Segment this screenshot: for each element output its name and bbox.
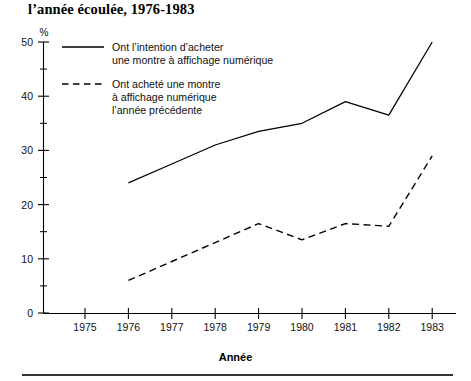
x-tick-label-1980: 1980 bbox=[290, 321, 314, 333]
legend-label-purchased-line1: Ont acheté une montre bbox=[112, 78, 220, 90]
legend-label-purchased-line3: l’année précédente bbox=[112, 104, 202, 116]
footer-divider bbox=[22, 374, 453, 376]
y-tick-label-50: 50 bbox=[21, 36, 33, 48]
legend-label-purchased-line2: à affichage numérique bbox=[112, 91, 217, 103]
legend-label-intention-line2: une montre à affichage numérique bbox=[112, 54, 273, 66]
y-axis-unit-label: % bbox=[40, 27, 49, 38]
y-tick-label-40: 40 bbox=[21, 90, 33, 102]
x-tick-label-1977: 1977 bbox=[160, 321, 184, 333]
chart-legend: Ont l’intention d’acheter une montre à a… bbox=[62, 41, 273, 116]
line-chart-plot: 50 40 30 20 10 0 % 1975 1976 1977 1978 1… bbox=[0, 0, 471, 345]
x-tick-label-1979: 1979 bbox=[247, 321, 271, 333]
x-tick-label-1978: 1978 bbox=[204, 321, 228, 333]
x-axis-title: Année bbox=[0, 351, 471, 363]
x-tick-label-1976: 1976 bbox=[117, 321, 141, 333]
x-tick-label-1982: 1982 bbox=[377, 321, 401, 333]
y-tick-label-20: 20 bbox=[21, 199, 33, 211]
x-tick-label-1975: 1975 bbox=[73, 321, 97, 333]
legend-label-intention-line1: Ont l’intention d’acheter bbox=[112, 41, 224, 53]
y-tick-label-0: 0 bbox=[27, 307, 33, 319]
chart-figure: l’année écoulée, 1976-1983 50 40 30 20 1… bbox=[0, 0, 471, 381]
series-line-purchased bbox=[128, 156, 432, 281]
y-tick-label-10: 10 bbox=[21, 253, 33, 265]
x-tick-label-1983: 1983 bbox=[421, 321, 445, 333]
y-tick-label-30: 30 bbox=[21, 144, 33, 156]
x-tick-label-1981: 1981 bbox=[334, 321, 358, 333]
